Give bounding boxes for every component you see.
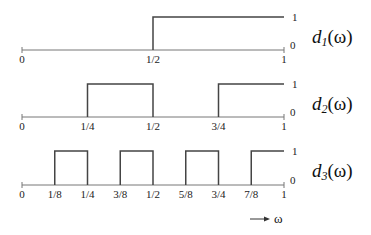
plot-d1: 01/2110d1(ω)	[19, 11, 352, 65]
pulse-0	[153, 17, 284, 50]
function-label-d2: d2(ω)	[312, 93, 353, 116]
function-label-d1: d1(ω)	[312, 26, 353, 49]
omega-label: ω	[274, 211, 283, 226]
pulse-2	[186, 151, 219, 185]
plot-d3: 01/81/43/81/25/83/47/8110d3(ω)	[19, 145, 352, 200]
pulse-0	[88, 84, 154, 117]
binary-digit-functions-diagram: 01/2110d1(ω)01/41/23/4110d2(ω)01/81/43/8…	[0, 0, 371, 235]
tick-label: 1/2	[146, 120, 160, 132]
tick-label: 1/4	[80, 120, 95, 132]
function-label-d3: d3(ω)	[312, 160, 353, 183]
omega-axis-arrow: ω	[250, 211, 283, 226]
level-zero-label: 0	[290, 106, 296, 118]
tick-label: 3/8	[113, 188, 128, 200]
tick-label: 5/8	[179, 188, 194, 200]
level-one-label: 1	[292, 78, 298, 90]
arrowhead-icon	[264, 217, 270, 222]
tick-label: 1/2	[146, 53, 160, 65]
pulse-1	[219, 84, 285, 117]
tick-label: 3/4	[211, 120, 226, 132]
plots-group: 01/2110d1(ω)01/41/23/4110d2(ω)01/81/43/8…	[19, 11, 352, 200]
tick-label: 1/4	[80, 188, 95, 200]
level-zero-label: 0	[290, 39, 296, 51]
plot-d2: 01/41/23/4110d2(ω)	[19, 78, 352, 132]
tick-label: 1	[281, 120, 287, 132]
tick-label: 1	[281, 53, 287, 65]
level-zero-label: 0	[290, 174, 296, 186]
pulse-1	[120, 151, 153, 185]
tick-label: 0	[19, 53, 25, 65]
tick-label: 3/4	[211, 188, 226, 200]
level-one-label: 1	[292, 145, 298, 157]
tick-label: 1/2	[146, 188, 160, 200]
level-one-label: 1	[292, 11, 298, 23]
pulse-0	[55, 151, 88, 185]
tick-label: 1	[281, 188, 287, 200]
tick-label: 7/8	[244, 188, 259, 200]
tick-label: 1/8	[48, 188, 63, 200]
tick-label: 0	[19, 188, 25, 200]
tick-label: 0	[19, 120, 25, 132]
pulse-3	[251, 151, 284, 185]
